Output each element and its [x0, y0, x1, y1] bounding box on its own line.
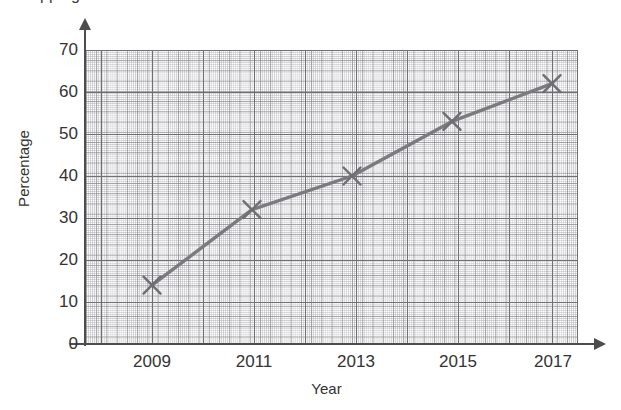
gridline-h-40	[86, 176, 578, 177]
x-tick-2013: 2013	[337, 352, 375, 372]
y-tick-10: 10	[32, 292, 78, 312]
gridline-v-2010	[203, 50, 204, 344]
gridline-v-right-edge	[577, 50, 578, 344]
gridline-v-2015	[458, 50, 459, 344]
y-axis-line	[84, 28, 86, 346]
y-tick-60: 60	[32, 82, 78, 102]
gridline-h-30	[86, 218, 578, 219]
gridline-h-60	[86, 92, 578, 93]
x-tick-2017: 2017	[534, 352, 572, 372]
gridline-v-2008	[101, 50, 102, 344]
gridline-v-2009	[152, 50, 153, 344]
gridline-v-2017	[552, 50, 553, 344]
y-tick-30: 30	[32, 208, 78, 228]
x-axis-title-text: Year	[311, 380, 341, 397]
x-tick-2011: 2011	[236, 352, 273, 372]
x-tick-2015: 2015	[439, 352, 477, 372]
gridline-h-20	[86, 260, 578, 261]
plot-area	[86, 50, 578, 344]
chart-title-clipped: ...pping ... ...	[0, 0, 621, 10]
gridline-h-70	[86, 50, 578, 51]
y-tick-0: 0	[32, 334, 78, 354]
x-tick-2009: 2009	[133, 352, 171, 372]
gridline-v-2013	[356, 50, 357, 344]
gridline-v-2011	[254, 50, 255, 344]
gridline-v-2014	[407, 50, 408, 344]
y-tick-40: 40	[32, 166, 78, 186]
y-axis-ticks: 0 10 20 30 40 50 60 70	[26, 0, 78, 410]
x-axis-arrow-icon	[594, 338, 606, 350]
x-axis-title: Year	[0, 380, 621, 397]
y-tick-20: 20	[32, 250, 78, 270]
line-chart: ...pping ... ... 0 10 20 30 40 50	[0, 0, 621, 410]
y-tick-50: 50	[32, 124, 78, 144]
y-tick-70: 70	[32, 40, 78, 60]
y-axis-title: Percentage	[15, 109, 32, 229]
gridline-v-2012	[305, 50, 306, 344]
x-axis-line	[70, 343, 595, 345]
gridline-v-2016	[509, 50, 510, 344]
gridline-h-50	[86, 134, 578, 135]
gridline-h-10	[86, 302, 578, 303]
y-axis-arrow-icon	[79, 18, 91, 30]
